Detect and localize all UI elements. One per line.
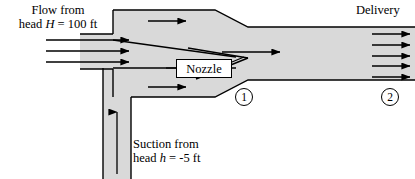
flow-inlet-label-line1: Flow from	[6, 3, 110, 17]
suction-label-line2: head h = -5 ft	[133, 151, 200, 165]
ejector-diagram: Flow from head H = 100 ft Suction from h…	[0, 0, 415, 179]
flow-head-prefix: head	[19, 17, 46, 31]
suction-head-prefix: head	[133, 151, 160, 165]
station-marker-1: 1	[235, 88, 253, 106]
suction-label: Suction from head h = -5 ft	[133, 137, 200, 165]
delivery-label: Delivery	[356, 3, 400, 17]
flow-head-value: = 100 ft	[54, 17, 97, 31]
station-marker-2: 2	[381, 88, 399, 106]
flow-inlet-label-line2: head H = 100 ft	[6, 17, 110, 31]
flow-inlet-label: Flow from head H = 100 ft	[6, 3, 110, 31]
nozzle-label: Nozzle	[176, 59, 232, 78]
suction-head-value: = -5 ft	[166, 151, 200, 165]
suction-label-line1: Suction from	[133, 137, 200, 151]
